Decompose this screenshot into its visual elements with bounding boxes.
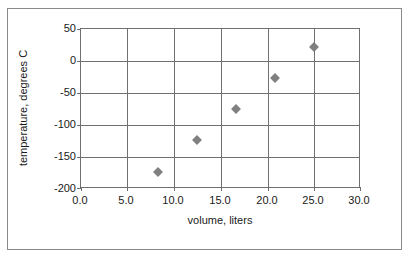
x-axis-tick	[221, 187, 222, 191]
gridline-vertical	[314, 29, 315, 187]
y-axis-tick	[77, 125, 81, 126]
x-tick-label: 15.0	[198, 195, 242, 206]
y-axis-tick	[77, 29, 81, 30]
data-point	[192, 135, 202, 145]
x-axis-tick	[127, 187, 128, 191]
x-axis-title: volume, liters	[80, 214, 360, 226]
y-axis-tick	[77, 93, 81, 94]
gridline-horizontal	[81, 157, 359, 158]
x-axis-tick	[174, 187, 175, 191]
gridline-horizontal	[81, 93, 359, 94]
data-point	[153, 167, 163, 177]
y-tick-label: -150	[36, 151, 76, 162]
y-axis-tick	[77, 157, 81, 158]
x-tick-label: 0.0	[58, 195, 102, 206]
x-axis-tick	[360, 187, 361, 191]
gridline-horizontal	[81, 125, 359, 126]
plot-area	[80, 28, 360, 188]
x-tick-label: 10.0	[151, 195, 195, 206]
x-tick-label: 30.0	[337, 195, 381, 206]
y-tick-label: 0	[36, 55, 76, 66]
y-axis-title-text: temperature, degrees C	[17, 50, 29, 166]
y-tick-label: 50	[36, 23, 76, 34]
x-tick-label: 25.0	[291, 195, 335, 206]
x-axis-tick	[268, 187, 269, 191]
y-tick-label: -100	[36, 119, 76, 130]
gridline-vertical	[221, 29, 222, 187]
y-axis-tick	[77, 61, 81, 62]
chart-figure: temperature, degrees C 50 0 -50 -100 -15…	[0, 0, 412, 260]
data-point	[270, 73, 280, 83]
y-axis-title: temperature, degrees C	[16, 28, 30, 188]
x-tick-label: 5.0	[104, 195, 148, 206]
gridline-vertical	[127, 29, 128, 187]
data-point	[231, 104, 241, 114]
gridline-horizontal	[81, 61, 359, 62]
gridline-vertical	[174, 29, 175, 187]
data-point	[309, 42, 319, 52]
gridline-vertical	[268, 29, 269, 187]
x-tick-label: 20.0	[245, 195, 289, 206]
y-tick-label: -50	[36, 87, 76, 98]
y-tick-label: -200	[36, 183, 76, 194]
x-axis-tick	[81, 187, 82, 191]
x-axis-tick	[314, 187, 315, 191]
